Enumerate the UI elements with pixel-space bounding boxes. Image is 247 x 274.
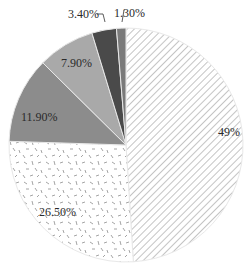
pie-chart: 49% 26.50% 11.90% 7.90% 3.40% 1.30% (0, 0, 247, 274)
label-11-90: 11.90% (21, 110, 58, 124)
label-26-50: 26.50% (39, 205, 76, 219)
label-1-30: 1.30% (114, 6, 145, 20)
label-7-90: 7.90% (61, 56, 92, 70)
label-3-40: 3.40% (68, 7, 99, 21)
pie-slice-49 (126, 28, 243, 262)
pie-slices (9, 28, 243, 262)
label-49: 49% (218, 125, 240, 139)
pie-slice-26-50 (9, 141, 133, 262)
